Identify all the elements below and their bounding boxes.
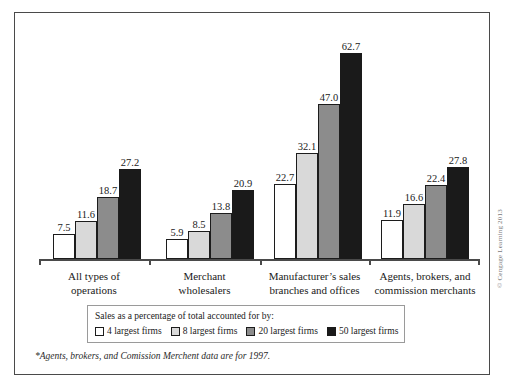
category-label-merchant-wholesalers: Merchant wholesalers [149,269,260,297]
legend-item-4-largest[interactable]: 4 largest firms [95,325,162,337]
bar-value-label: 16.6 [405,192,423,203]
copyright-credit: © Cengage Learning 2013 [496,209,504,288]
bar-value-label: 5.9 [170,227,183,238]
x-axis-line [39,259,479,261]
bar-wrap: 22.4 [425,44,447,259]
legend-item-8-largest[interactable]: 8 largest firms [171,325,238,337]
legend-item-50-largest[interactable]: 50 largest firms [327,325,398,337]
category-label-line: wholesalers [149,283,260,297]
bar-value-label: 32.1 [298,141,316,152]
bar-wrap: 18.7 [97,44,119,259]
legend-swatch-icon [95,327,104,336]
axis-tick [260,259,262,265]
bar-20-largest[interactable] [210,213,232,259]
bar-value-label: 22.4 [427,173,445,184]
bar-value-label: 22.7 [276,172,294,183]
bar-value-label: 11.6 [77,209,95,220]
legend-item-20-largest[interactable]: 20 largest firms [246,325,317,337]
bar-4-largest[interactable] [381,220,403,259]
legend-swatch-icon [246,327,255,336]
axis-tick [369,259,371,265]
bar-wrap: 62.7 [340,44,362,259]
bar-wrap: 8.5 [188,44,210,259]
bar-wrap: 22.7 [274,44,296,259]
bar-value-label: 27.2 [121,157,139,168]
plot-area: 7.5 11.6 18.7 27.2 5.9 8.5 [15,13,491,259]
bar-8-largest[interactable] [403,204,425,259]
bar-50-largest[interactable] [119,169,141,259]
category-label-line: All types of [39,269,149,283]
bar-wrap: 11.9 [381,44,403,259]
bar-wrap: 27.8 [447,44,469,259]
legend-swatch-icon [327,327,336,336]
bar-50-largest[interactable] [232,190,254,259]
category-label-line: Merchant [149,269,260,283]
bar-8-largest[interactable] [188,231,210,259]
bar-wrap: 27.2 [119,44,141,259]
bar-group-merchant-wholesalers: 5.9 8.5 13.8 20.9 [160,44,260,259]
bar-value-label: 7.5 [57,222,70,233]
bar-value-label: 18.7 [99,185,117,196]
category-label-line: Manufacturer’s sales [260,269,369,283]
bar-wrap: 47.0 [318,44,340,259]
bar-value-label: 11.9 [383,208,401,219]
bar-20-largest[interactable] [97,197,119,259]
axis-tick [478,259,480,265]
legend-label: 8 largest firms [183,325,238,337]
bar-group-all-types: 7.5 11.6 18.7 27.2 [47,44,147,259]
legend-box: Sales as a percentage of total accounted… [87,305,405,343]
bar-8-largest[interactable] [75,221,97,259]
bar-wrap: 16.6 [403,44,425,259]
bar-wrap: 11.6 [75,44,97,259]
category-label-line: operations [39,283,149,297]
bar-wrap: 32.1 [296,44,318,259]
bar-group-agents-brokers: 11.9 16.6 22.4 27.8 [375,44,475,259]
bar-value-label: 20.9 [234,178,252,189]
category-label-line: branches and offices [260,283,369,297]
bar-20-largest[interactable] [318,104,340,259]
category-label-line: Agents, brokers, and [369,269,481,283]
bar-4-largest[interactable] [166,239,188,259]
bar-wrap: 7.5 [53,44,75,259]
bar-value-label: 13.8 [212,201,230,212]
legend-label: 50 largest firms [339,325,398,337]
bar-4-largest[interactable] [53,234,75,259]
footnote: *Agents, brokers, and Comission Merchent… [35,351,270,361]
bar-group-manufacturers-sales-branches: 22.7 32.1 47.0 62.7 [268,44,368,259]
bar-value-label: 8.5 [192,219,205,230]
category-label-line: commission merchants [369,283,481,297]
bar-4-largest[interactable] [274,184,296,259]
bar-value-label: 27.8 [449,155,467,166]
category-label-all-types: All types of operations [39,269,149,297]
legend-title: Sales as a percentage of total accounted… [95,310,397,322]
bar-50-largest[interactable] [340,53,362,259]
bar-20-largest[interactable] [425,185,447,259]
figure-frame: 7.5 11.6 18.7 27.2 5.9 8.5 [14,12,490,375]
category-label-agents-brokers: Agents, brokers, and commission merchant… [369,269,481,297]
legend-label: 4 largest firms [107,325,162,337]
legend-swatch-icon [171,327,180,336]
legend-items: 4 largest firms 8 largest firms 20 large… [95,325,397,337]
bar-wrap: 13.8 [210,44,232,259]
axis-tick [149,259,151,265]
bar-8-largest[interactable] [296,153,318,259]
category-label-manufacturers-sales-branches: Manufacturer’s sales branches and office… [260,269,369,297]
axis-tick [39,259,41,265]
bar-value-label: 62.7 [342,41,360,52]
legend-label: 20 largest firms [258,325,317,337]
bar-value-label: 47.0 [320,92,338,103]
bar-wrap: 20.9 [232,44,254,259]
bar-wrap: 5.9 [166,44,188,259]
bar-50-largest[interactable] [447,167,469,259]
